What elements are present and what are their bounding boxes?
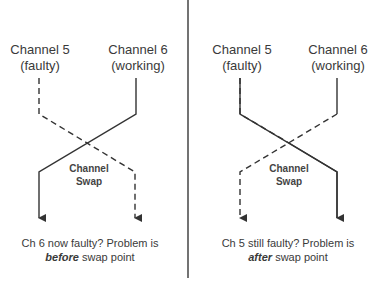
swap-line1: Channel [62, 162, 116, 175]
emphasis: before [45, 251, 79, 263]
channel-status: (faulty) [8, 58, 72, 74]
channel-6-label-left: Channel 6 (working) [100, 42, 176, 74]
swap-label-left: Channel Swap [62, 162, 116, 188]
channel-name: Channel 6 [100, 42, 176, 58]
swap-line1: Channel [262, 162, 316, 175]
channel-5-path-right-top [240, 78, 289, 143]
swap-line2: Swap [62, 175, 116, 188]
conclusion-line1: Ch 6 now faulty? Problem is [0, 236, 180, 250]
channel-6-path-right-a [240, 78, 337, 218]
conclusion-line2: before swap point [0, 250, 180, 264]
channel-5-label-left: Channel 5 (faulty) [8, 42, 72, 74]
channel-6-label-right: Channel 6 (working) [300, 42, 373, 74]
channel-status: (working) [100, 58, 176, 74]
emphasis: after [248, 251, 272, 263]
channel-status: (faulty) [210, 58, 274, 74]
swap-line2: Swap [262, 175, 316, 188]
conclusion-rest: swap point [79, 251, 135, 263]
conclusion-rest: swap point [272, 251, 328, 263]
channel-5-path-left [39, 78, 135, 218]
channel-name: Channel 5 [8, 42, 72, 58]
conclusion-line1: Ch 5 still faulty? Problem is [198, 236, 373, 250]
channel-6-path-left [39, 78, 136, 218]
swap-label-right: Channel Swap [262, 162, 316, 188]
conclusion-left: Ch 6 now faulty? Problem is before swap … [0, 236, 180, 264]
channel-name: Channel 6 [300, 42, 373, 58]
channel-status: (working) [300, 58, 373, 74]
channel-5-label-right: Channel 5 (faulty) [210, 42, 274, 74]
conclusion-line2: after swap point [198, 250, 373, 264]
conclusion-right: Ch 5 still faulty? Problem is after swap… [198, 236, 373, 264]
channel-name: Channel 5 [210, 42, 274, 58]
